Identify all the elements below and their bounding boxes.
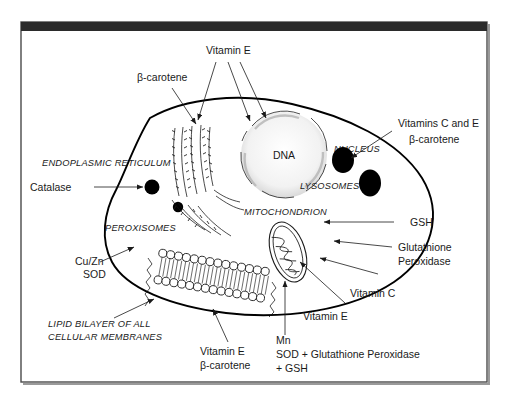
label-glutathione-peroxidase-2: Peroxidase — [398, 255, 451, 267]
label-lipid-bilayer-2: CELLULAR MEMBRANES — [48, 332, 163, 342]
frame-shadow-right — [488, 24, 490, 385]
frame-shadow-bottom — [23, 383, 489, 385]
peroxisomes-label: PEROXISOMES — [105, 223, 177, 233]
endoplasmic-reticulum-label: ENDOPLASMIC RETICULUM — [42, 158, 171, 168]
diagram-canvas: DNA NUCLEUS LYSOSOMES PEROXISOMES — [0, 0, 510, 409]
lysosome-2 — [359, 170, 381, 197]
label-vitamin-e-membrane: Vitamin E — [200, 345, 245, 357]
label-beta-carotene-lysosome: β-carotene — [409, 133, 460, 145]
figure-frame — [21, 22, 490, 385]
label-cu-zn-sod-2: SOD — [83, 268, 106, 280]
cell-antioxidant-diagram: DNA NUCLEUS LYSOSOMES PEROXISOMES — [0, 0, 510, 409]
label-gsh: GSH — [410, 216, 433, 228]
label-mn-sod-gpx: SOD + Glutathione Peroxidase — [276, 348, 420, 360]
label-lipid-bilayer-1: LIPID BILAYER OF ALL — [48, 319, 151, 329]
label-mn-gsh: + GSH — [276, 362, 308, 374]
label-vitamins-c-and-e: Vitamins C and E — [398, 117, 479, 129]
lysosomes-label: LYSOSOMES — [300, 181, 360, 191]
label-catalase: Catalase — [30, 181, 72, 193]
dna-label: DNA — [273, 149, 295, 161]
label-vitamin-e-top: Vitamin E — [206, 44, 251, 56]
label-beta-carotene-membrane: β-carotene — [200, 359, 251, 371]
label-vitamin-e-mitochondrion: Vitamin E — [303, 310, 348, 322]
frame-top-bar — [21, 22, 487, 31]
peroxisome-1 — [145, 180, 160, 195]
label-mn: Mn — [276, 334, 291, 346]
label-vitamin-c: Vitamin C — [350, 287, 396, 299]
label-glutathione-peroxidase-1: Glutathione — [398, 241, 452, 253]
label-beta-carotene-er: β-carotene — [137, 71, 188, 83]
label-cu-zn-sod-1: Cu/Zn — [75, 255, 104, 267]
lysosome-1 — [332, 147, 354, 173]
mitochondrion-label: MITOCHONDRION — [244, 207, 327, 217]
